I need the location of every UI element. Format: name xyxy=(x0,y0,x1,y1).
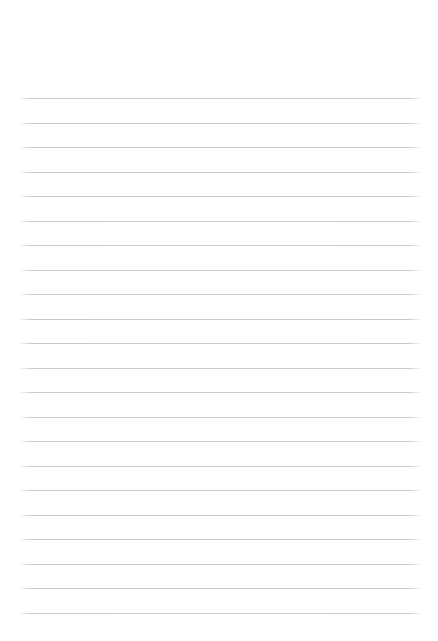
ruled-line xyxy=(20,490,420,491)
ruled-line xyxy=(20,417,420,418)
ruled-line xyxy=(20,196,420,197)
ruled-line xyxy=(20,588,420,589)
ruled-line xyxy=(20,172,420,173)
ruled-line xyxy=(20,147,420,148)
ruled-line xyxy=(20,564,420,565)
ruled-line xyxy=(20,392,420,393)
ruled-line xyxy=(20,221,420,222)
ruled-line xyxy=(20,539,420,540)
ruled-line xyxy=(20,98,420,99)
ruled-line xyxy=(20,466,420,467)
ruled-line xyxy=(20,270,420,271)
ruled-line xyxy=(20,515,420,516)
ruled-line xyxy=(20,613,420,614)
ruled-line xyxy=(20,123,420,124)
ruled-line xyxy=(20,294,420,295)
ruled-line xyxy=(20,368,420,369)
ruled-line xyxy=(20,441,420,442)
ruled-line xyxy=(20,343,420,344)
ruled-line xyxy=(20,319,420,320)
ruled-paper-page xyxy=(0,0,438,641)
ruled-line xyxy=(20,245,420,246)
